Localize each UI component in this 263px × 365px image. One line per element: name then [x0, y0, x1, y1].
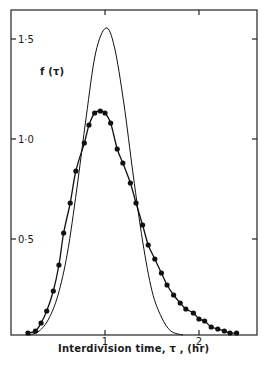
x-axis-label: Interdivision time, τ , (hr)	[58, 343, 209, 354]
data-point	[202, 318, 207, 323]
data-point	[120, 160, 125, 165]
data-point	[146, 242, 151, 247]
data-point	[227, 330, 232, 335]
y-tick-label: 1·0	[18, 134, 34, 145]
data-point	[215, 326, 220, 331]
data-point	[171, 292, 176, 297]
data-point	[68, 200, 73, 205]
data-point	[128, 180, 133, 185]
data-point	[102, 110, 107, 115]
data-point	[108, 120, 113, 125]
data-point	[133, 200, 138, 205]
data-point	[222, 328, 227, 333]
data-point	[234, 330, 239, 335]
data-point	[86, 122, 91, 127]
data-point	[98, 108, 103, 113]
y-tick-label: 0·5	[18, 234, 34, 245]
data-point	[44, 308, 49, 313]
data-point	[115, 146, 120, 151]
data-point	[56, 262, 61, 267]
data-point	[140, 222, 145, 227]
data-point	[33, 328, 38, 333]
data-point	[152, 256, 157, 261]
interdivision-time-chart: 120·51·01·5 f (τ) Interdivision time, τ …	[0, 0, 263, 365]
data-point	[183, 306, 188, 311]
data-point	[209, 324, 214, 329]
y-tick-label: 1·5	[18, 34, 34, 45]
data-point	[178, 300, 183, 305]
data-point	[25, 330, 30, 335]
data-point	[92, 110, 97, 115]
data-point	[61, 230, 66, 235]
data-point	[82, 140, 87, 145]
data-point	[164, 282, 169, 287]
data-point	[191, 310, 196, 315]
data-point	[51, 288, 56, 293]
data-point	[73, 168, 78, 173]
data-point	[196, 316, 201, 321]
y-axis-label: f (τ)	[40, 66, 64, 77]
data-point	[38, 320, 43, 325]
data-point	[159, 270, 164, 275]
